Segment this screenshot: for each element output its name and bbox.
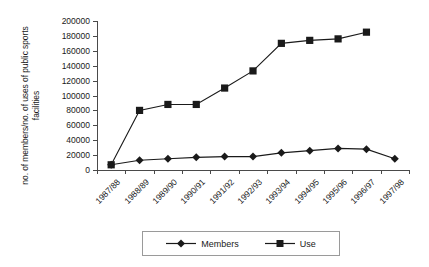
diamond-marker-icon: [166, 238, 196, 249]
data-point-members: [221, 153, 229, 161]
legend-label-use: Use: [300, 239, 316, 249]
data-point-use: [221, 84, 228, 91]
data-point-members: [164, 155, 172, 163]
x-tick: [239, 170, 240, 174]
data-point-use: [306, 37, 313, 44]
legend-label-members: Members: [201, 239, 239, 249]
y-tick-label: 160000: [62, 46, 90, 56]
data-point-members: [334, 144, 342, 152]
data-point-members: [306, 147, 314, 155]
data-point-use: [278, 40, 285, 47]
x-tick: [267, 170, 268, 174]
y-tick-label: 80000: [66, 105, 90, 115]
x-tick: [409, 170, 410, 174]
x-tick: [296, 170, 297, 174]
sports-participation-line-chart: no. of members/no. of uses of public spo…: [0, 0, 429, 267]
data-point-use: [193, 101, 200, 108]
series-line-use: [111, 32, 366, 165]
x-tick: [125, 170, 126, 174]
x-tick: [352, 170, 353, 174]
data-point-use: [334, 35, 341, 42]
y-tick-label: 100000: [62, 91, 90, 101]
data-point-use: [136, 107, 143, 114]
y-axis-title: no. of members/no. of uses of public spo…: [20, 21, 41, 191]
data-point-use: [249, 67, 256, 74]
chart-legend: Members Use: [142, 231, 340, 256]
x-axis-line: [97, 170, 409, 171]
y-tick-label: 40000: [66, 135, 90, 145]
data-point-use: [108, 161, 115, 168]
data-point-members: [391, 155, 399, 163]
data-point-use: [363, 29, 370, 36]
data-point-use: [164, 101, 171, 108]
legend-item-use: Use: [265, 238, 316, 249]
y-tick-label: 0: [85, 165, 90, 175]
x-tick: [210, 170, 211, 174]
x-tick: [324, 170, 325, 174]
square-marker-icon: [265, 238, 295, 249]
y-tick-label: 120000: [62, 76, 90, 86]
data-point-members: [362, 145, 370, 153]
x-tick: [154, 170, 155, 174]
plot-area: 0200004000060000800001000001200001400001…: [97, 21, 409, 170]
y-tick-label: 200000: [62, 16, 90, 26]
data-point-members: [277, 149, 285, 157]
y-tick-label: 20000: [66, 150, 90, 160]
x-tick: [97, 170, 98, 174]
y-tick-label: 60000: [66, 120, 90, 130]
x-tick: [182, 170, 183, 174]
series-plot: [97, 21, 409, 170]
y-tick-label: 140000: [62, 61, 90, 71]
y-tick-label: 180000: [62, 31, 90, 41]
data-point-members: [136, 156, 144, 164]
x-tick: [381, 170, 382, 174]
data-point-members: [249, 153, 257, 161]
legend-item-members: Members: [166, 238, 239, 249]
data-point-members: [192, 153, 200, 161]
